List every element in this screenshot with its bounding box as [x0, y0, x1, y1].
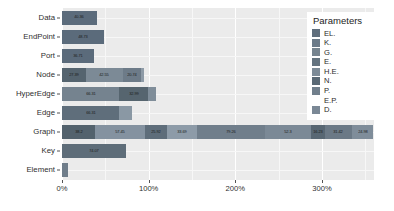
- bar-segment-label: 20.74: [127, 73, 136, 77]
- legend-item-label: E.P.: [324, 97, 337, 105]
- legend-swatch-icon: [312, 96, 320, 104]
- legend-item[interactable]: N.: [312, 76, 383, 86]
- bar-segment-label: 48.73: [78, 35, 87, 39]
- gridline-horizontal: [62, 170, 374, 171]
- bar-segment: 32.99: [119, 87, 148, 101]
- bar-segment: 66.31: [62, 106, 119, 120]
- legend-item[interactable]: E.P.: [312, 96, 383, 106]
- bar-segment: 25.92: [145, 125, 167, 139]
- bar-row: 27.3942.5520.74: [62, 68, 144, 82]
- legend-swatch-icon: [312, 87, 320, 95]
- y-axis-tick: [57, 132, 60, 133]
- legend-swatch-icon: [312, 58, 320, 66]
- legend-item-label: H.E.: [324, 68, 339, 76]
- bar-segment: [148, 87, 156, 101]
- bar-segment: 16.23: [311, 125, 325, 139]
- y-axis-label: Element: [26, 167, 55, 175]
- x-axis: 0%100%200%300%: [62, 180, 374, 204]
- y-axis-tick: [57, 74, 60, 75]
- bar-segment: 38.2: [62, 125, 95, 139]
- bar-segment: 52.3: [265, 125, 310, 139]
- bar-segment-label: 79.26: [226, 130, 235, 134]
- y-axis-tick: [57, 94, 60, 95]
- legend-item[interactable]: K.: [312, 38, 383, 48]
- legend-items: EL.K.G.E.H.E.N.P.E.P.D.: [312, 29, 383, 115]
- y-axis-label: EndPoint: [23, 33, 55, 41]
- legend-item-label: D.: [324, 106, 332, 114]
- bar-segment-label: 25.92: [151, 130, 160, 134]
- bar-row: 66.3132.99: [62, 87, 156, 101]
- legend-swatch-icon: [312, 68, 320, 76]
- y-axis: DataEndPointPortNodeHyperEdgeEdgeGraphKe…: [0, 8, 62, 180]
- bar-segment: 27.39: [62, 68, 86, 82]
- bar-segment: [62, 163, 68, 177]
- bar-segment: 36.71: [62, 49, 94, 63]
- bar-segment: 74.07: [62, 144, 126, 158]
- legend-item[interactable]: D.: [312, 105, 383, 115]
- bar-segment: 20.74: [123, 68, 141, 82]
- bar-segment: 48.73: [62, 30, 104, 44]
- y-axis-tick: [57, 113, 60, 114]
- y-axis-label: HyperEdge: [16, 90, 55, 98]
- legend-item-label: P.: [324, 87, 330, 95]
- x-axis-label: 300%: [312, 185, 331, 193]
- bar-segment-label: 57.45: [115, 130, 124, 134]
- stacked-bar-chart: DataEndPointPortNodeHyperEdgeEdgeGraphKe…: [0, 0, 394, 211]
- bar-segment-label: 24.98: [358, 130, 367, 134]
- bar-row: 36.71: [62, 49, 94, 63]
- bar-row: 48.73: [62, 30, 104, 44]
- legend-item[interactable]: E.: [312, 57, 383, 67]
- legend-item[interactable]: P.: [312, 86, 383, 96]
- bar-segment: 33.69: [167, 125, 196, 139]
- x-axis-label: 200%: [226, 185, 245, 193]
- x-axis-tick: [322, 180, 323, 183]
- legend: Parameters EL.K.G.E.H.E.N.P.E.P.D.: [307, 12, 387, 120]
- bar-row: 74.07: [62, 144, 126, 158]
- legend-item[interactable]: G.: [312, 48, 383, 58]
- x-axis-label: 0%: [57, 185, 68, 193]
- bar-segment: [119, 106, 132, 120]
- legend-item-label: N.: [324, 77, 332, 85]
- legend-swatch-icon: [312, 39, 320, 47]
- bar-segment: 42.55: [86, 68, 123, 82]
- bar-segment: [141, 68, 145, 82]
- bar-segment-label: 38.2: [75, 130, 82, 134]
- legend-swatch-icon: [312, 48, 320, 56]
- legend-item-label: E.: [324, 58, 331, 66]
- x-axis-tick: [62, 180, 63, 183]
- x-axis-tick: [235, 180, 236, 183]
- legend-title: Parameters: [313, 16, 383, 26]
- bar-segment: 40.36: [62, 11, 97, 25]
- y-axis-label: Graph: [33, 128, 55, 136]
- legend-item[interactable]: H.E.: [312, 67, 383, 77]
- bar-segment: 66.31: [62, 87, 119, 101]
- bar-segment-label: 16.23: [313, 130, 322, 134]
- bar-segment-label: 42.55: [99, 73, 108, 77]
- bar-segment: 79.26: [197, 125, 266, 139]
- y-axis-label: Node: [36, 71, 55, 79]
- y-axis-label: Key: [42, 147, 55, 155]
- y-axis-tick: [57, 17, 60, 18]
- bar-segment-label: 33.69: [177, 130, 186, 134]
- x-axis-tick: [149, 180, 150, 183]
- legend-swatch-icon: [312, 77, 320, 85]
- bar-segment-label: 74.07: [89, 149, 98, 153]
- bar-segment-label: 66.31: [86, 92, 95, 96]
- legend-item[interactable]: EL.: [312, 29, 383, 39]
- bar-segment-label: 27.39: [69, 73, 78, 77]
- bar-segment-label: 52.3: [284, 130, 291, 134]
- x-axis-label: 100%: [139, 185, 158, 193]
- y-axis-tick: [57, 170, 60, 171]
- bar-segment: 57.45: [95, 125, 145, 139]
- bar-segment-label: 32.99: [129, 92, 138, 96]
- bar-segment-label: 31.42: [333, 130, 342, 134]
- bar-segment-label: 40.36: [75, 16, 84, 20]
- legend-swatch-icon: [312, 29, 320, 37]
- legend-swatch-icon: [312, 106, 320, 114]
- bar-segment: 24.98: [352, 125, 374, 139]
- y-axis-tick: [57, 151, 60, 152]
- legend-item-label: EL.: [324, 30, 335, 38]
- y-axis-label: Data: [39, 14, 55, 22]
- y-axis-tick: [57, 36, 60, 37]
- bar-row: [62, 163, 68, 177]
